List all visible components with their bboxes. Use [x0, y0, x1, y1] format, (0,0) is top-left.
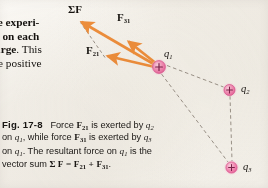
- label-charge-q3-subscript: 3: [248, 166, 251, 173]
- charge-q1-halo: [150, 58, 167, 75]
- body-text-column: ge experi- g on each arge. This ee posit…: [0, 16, 72, 70]
- charge-q1-plus-icon: [156, 64, 163, 71]
- caption-figure-number: Fig. 17-8: [2, 119, 43, 130]
- charge-q2: [224, 85, 235, 96]
- charge-q3: [226, 162, 237, 173]
- charge-q2-plus-icon: [227, 87, 233, 93]
- caption-line-1: Fig. 17-8 Force F21 is exerted by q2: [2, 118, 180, 131]
- body-text-line-3-bold: arge: [0, 43, 16, 55]
- label-force-31-subscript: 31: [124, 17, 131, 24]
- body-text-line-1: ge experi-: [0, 16, 72, 30]
- charge-q1: [153, 61, 166, 74]
- figure-caption: Fig. 17-8 Force F21 is exerted by q2 on …: [2, 118, 180, 172]
- label-force-21: F21: [86, 44, 99, 56]
- charge-q2-halo: [222, 82, 237, 97]
- body-text-line-4: ee positive: [0, 57, 72, 71]
- vector-force-31: [129, 42, 158, 65]
- dashed-q2-to-q3: [230, 96, 232, 161]
- label-charge-q3: q3: [243, 161, 252, 172]
- label-force-31: F31: [117, 11, 130, 23]
- vector-force-21: [108, 56, 158, 68]
- body-text-line-2: g on each: [0, 30, 72, 44]
- figure-page: ge experi- g on each arge. This ee posit…: [0, 0, 268, 188]
- caption-f31-a: F31: [74, 132, 86, 142]
- charge-q3-halo: [224, 160, 240, 176]
- body-text-line-3: arge. This: [0, 43, 72, 57]
- dashed-q1-to-q2: [167, 66, 224, 88]
- caption-line-4: vector sum Σ F = F21 + F31.: [2, 158, 180, 171]
- label-charge-q2: q2: [241, 83, 250, 94]
- label-charge-q1-subscript: 1: [169, 53, 172, 60]
- label-force-21-subscript: 21: [93, 50, 100, 57]
- caption-line-2: on q1, while force F31 is exerted by q3: [2, 131, 180, 144]
- label-charge-q2-subscript: 2: [246, 88, 249, 95]
- caption-line-3: on q1. The resultant force on q1 is the: [2, 145, 180, 158]
- label-charge-q1: q1: [164, 48, 173, 59]
- charge-q3-plus-icon: [229, 165, 235, 171]
- label-resultant-sum: ΣF: [68, 3, 82, 15]
- caption-f21-a: F21: [76, 120, 88, 130]
